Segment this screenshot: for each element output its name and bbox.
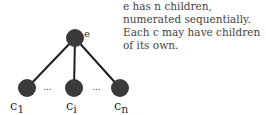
- root-node: [66, 29, 84, 47]
- child-label-i: ci: [66, 98, 77, 115]
- child-node-n: [111, 79, 129, 97]
- edge-root-cn: [75, 38, 120, 88]
- child-label-1: c1: [10, 98, 24, 115]
- ellipsis-2: ...: [92, 82, 101, 92]
- child-node-1: [18, 79, 36, 97]
- edge-root-c1: [27, 38, 75, 88]
- root-label: e: [84, 28, 90, 39]
- child-label-n: cn: [114, 98, 128, 115]
- ellipsis-1: ...: [43, 82, 52, 92]
- caption-text: e has n children, numerated sequentially…: [123, 0, 266, 52]
- child-node-i: [65, 79, 83, 97]
